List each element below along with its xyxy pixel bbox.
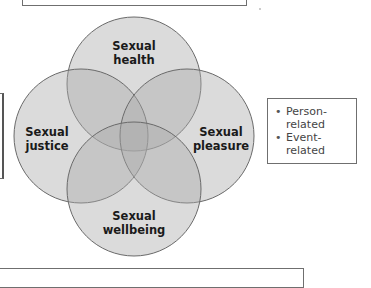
svg-text:pleasure: pleasure	[193, 139, 249, 153]
svg-text:wellbeing: wellbeing	[103, 223, 166, 237]
svg-text:Sexual: Sexual	[25, 125, 68, 139]
svg-text:justice: justice	[24, 139, 68, 153]
label-health: Sexual health	[112, 39, 155, 67]
svg-text:Sexual: Sexual	[112, 209, 155, 223]
label-pleasure: Sexual pleasure	[193, 125, 249, 153]
svg-text:Sexual: Sexual	[199, 125, 242, 139]
svg-text:Sexual: Sexual	[112, 39, 155, 53]
legend-box: Person-related Event-related	[267, 98, 357, 164]
svg-text:health: health	[113, 53, 154, 67]
legend-item-event: Event-related	[274, 131, 350, 157]
label-justice: Sexual justice	[24, 125, 68, 153]
legend-item-person: Person-related	[274, 105, 350, 131]
legend-list: Person-related Event-related	[274, 105, 350, 157]
